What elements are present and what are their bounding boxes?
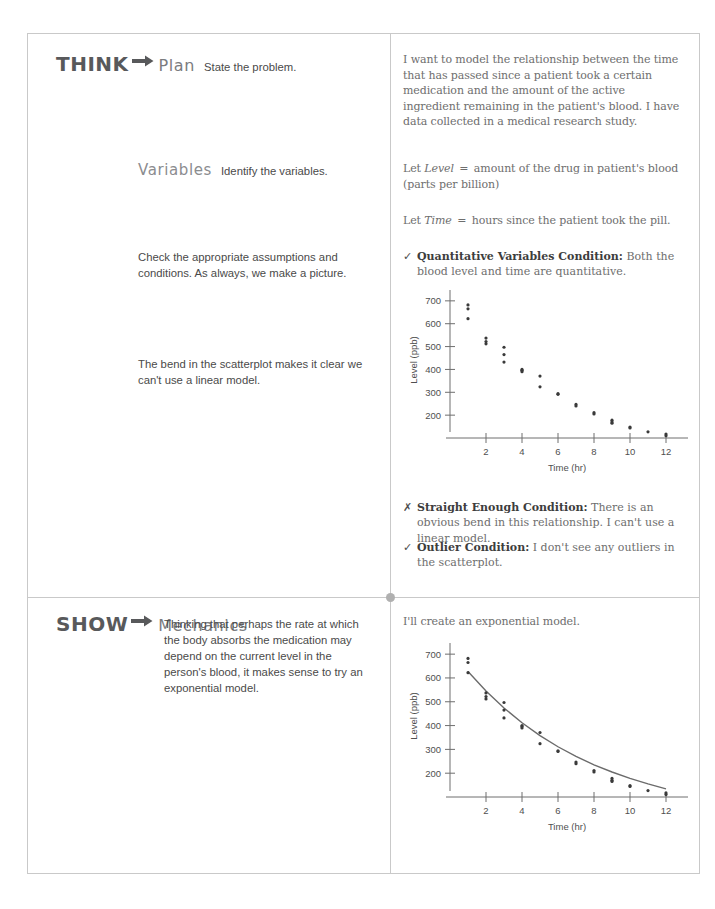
svg-text:600: 600 — [425, 672, 441, 683]
assumptions-note: Check the appropriate assumptions and co… — [138, 249, 373, 281]
svg-text:10: 10 — [625, 805, 636, 816]
scatterplot-svg: 200300400500600700Level (ppb)24681012Tim… — [404, 284, 690, 484]
svg-text:500: 500 — [425, 341, 441, 352]
condition-outlier: ✓ Outlier Condition: I don't see any out… — [403, 540, 686, 571]
condition-name: Outlier Condition: — [417, 541, 529, 554]
svg-text:Level (ppb): Level (ppb) — [408, 692, 419, 740]
think-step-heading: THINK Plan State the problem. — [56, 52, 296, 76]
svg-text:8: 8 — [591, 446, 596, 457]
svg-text:300: 300 — [425, 744, 441, 755]
checkmark-icon: ✓ — [403, 249, 417, 280]
svg-text:6: 6 — [555, 446, 560, 457]
variables-heading-row: Variables Identify the variables. — [138, 161, 328, 179]
model-note: I'll create an exponential model. — [403, 614, 684, 630]
time-variable-name: Time — [424, 214, 451, 227]
svg-text:Time (hr): Time (hr) — [548, 821, 586, 832]
textbook-page: THINK Plan State the problem. I want to … — [0, 0, 715, 909]
svg-text:2: 2 — [483, 446, 488, 457]
mechanics-caption: Thinking that perhaps the rate at which … — [164, 616, 376, 696]
condition-body: Quantitative Variables Condition: Both t… — [417, 249, 686, 280]
condition-body: Outlier Condition: I don't see any outli… — [417, 540, 686, 571]
svg-text:500: 500 — [425, 696, 441, 707]
problem-statement: I want to model the relationship between… — [403, 52, 684, 130]
column-divider — [390, 34, 391, 874]
plan-label: Plan — [159, 56, 195, 75]
svg-text:12: 12 — [661, 446, 672, 457]
svg-text:600: 600 — [425, 318, 441, 329]
svg-text:4: 4 — [519, 446, 524, 457]
exponential-fit-svg: 200300400500600700Level (ppb)24681012Tim… — [404, 635, 690, 853]
bend-note: The bend in the scatterplot makes it cle… — [138, 356, 373, 388]
svg-text:2: 2 — [483, 805, 488, 816]
svg-text:4: 4 — [519, 805, 524, 816]
time-equals-sign: = — [455, 214, 468, 227]
scatterplot-with-exponential-fit: 200300400500600700Level (ppb)24681012Tim… — [404, 635, 690, 853]
right-arrow-icon — [132, 53, 154, 71]
level-equals-sign: = — [457, 162, 470, 175]
svg-text:8: 8 — [591, 805, 596, 816]
svg-text:700: 700 — [425, 295, 441, 306]
right-arrow-icon — [131, 613, 153, 631]
level-variable-name: Level — [424, 162, 454, 175]
think-label: THINK — [56, 52, 129, 76]
svg-text:6: 6 — [555, 805, 560, 816]
svg-text:Level (ppb): Level (ppb) — [408, 336, 419, 384]
let-time-prefix: Let — [403, 214, 421, 227]
variables-caption: Identify the variables. — [221, 163, 328, 179]
svg-text:Time (hr): Time (hr) — [548, 462, 586, 473]
svg-text:10: 10 — [625, 446, 636, 457]
condition-name: Straight Enough Condition: — [417, 501, 588, 514]
divider-junction-dot — [386, 593, 395, 602]
let-time-definition: Let Time = hours since the patient took … — [403, 213, 684, 229]
plan-caption: State the problem. — [204, 59, 296, 75]
svg-text:400: 400 — [425, 364, 441, 375]
variables-label: Variables — [138, 161, 212, 179]
scatterplot-drug-level: 200300400500600700Level (ppb)24681012Tim… — [404, 284, 690, 484]
checkmark-icon: ✓ — [403, 540, 417, 571]
time-variable-text: hours since the patient took the pill. — [472, 214, 671, 227]
svg-text:300: 300 — [425, 387, 441, 398]
svg-text:200: 200 — [425, 768, 441, 779]
svg-text:400: 400 — [425, 720, 441, 731]
condition-name: Quantitative Variables Condition: — [417, 250, 623, 263]
section-divider — [28, 597, 700, 598]
let-level-prefix: Let — [403, 162, 421, 175]
show-label: SHOW — [56, 612, 128, 636]
svg-text:200: 200 — [425, 410, 441, 421]
svg-text:12: 12 — [661, 805, 672, 816]
condition-quantitative-variables: ✓ Quantitative Variables Condition: Both… — [403, 249, 686, 280]
svg-text:700: 700 — [425, 649, 441, 660]
let-level-definition: Let Level = amount of the drug in patien… — [403, 161, 684, 192]
